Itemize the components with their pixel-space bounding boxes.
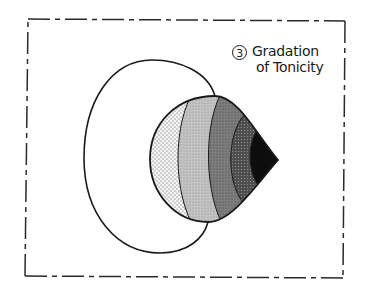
zone-5-black bbox=[250, 128, 300, 190]
title-line-1: Gradation bbox=[252, 43, 319, 59]
diagram-title: 3Gradation of Tonicity bbox=[250, 44, 360, 75]
number-badge: 3 bbox=[232, 45, 247, 60]
title-line-2: of Tonicity bbox=[256, 60, 360, 75]
